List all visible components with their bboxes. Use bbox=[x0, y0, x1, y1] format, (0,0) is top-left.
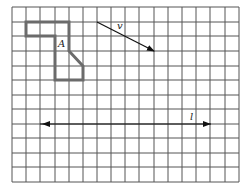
vector-v-label: v bbox=[117, 20, 123, 31]
shape-a-label: A bbox=[57, 38, 65, 49]
line-l-left-arrowhead bbox=[42, 121, 50, 127]
grid bbox=[12, 7, 239, 182]
translation-diagram: A v l bbox=[0, 0, 249, 187]
line-l-label: l bbox=[190, 111, 193, 122]
